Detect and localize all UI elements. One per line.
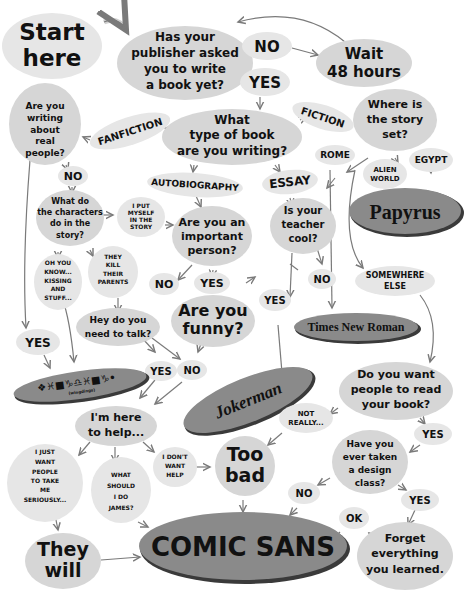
node-take-me-seriously[interactable]: I JUST WANT PEOPLE TO TAKE ME SERIOUSLY.… bbox=[7, 444, 83, 522]
node-publisher-no[interactable]: NO bbox=[242, 32, 292, 60]
node-real-no[interactable]: NO bbox=[58, 166, 88, 186]
real-line3: about bbox=[30, 125, 60, 135]
where-line3: set? bbox=[382, 128, 408, 141]
where-line1: Where is bbox=[368, 98, 423, 111]
kissing-line2: KNOW... bbox=[44, 268, 72, 275]
teacher-line1: Is your bbox=[284, 205, 323, 216]
node-publisher-yes[interactable]: YES bbox=[240, 68, 290, 96]
node-talk-question[interactable]: Hey do you need to talk? bbox=[76, 308, 160, 346]
help-line1: I'm here bbox=[91, 411, 142, 424]
real-no-label: NO bbox=[64, 170, 83, 183]
read-line3: your book? bbox=[362, 398, 431, 411]
design-line4: class? bbox=[355, 478, 385, 488]
node-real-yes[interactable]: YES bbox=[16, 329, 60, 355]
teacher-no-label: NO bbox=[314, 274, 331, 285]
read-yes-label: YES bbox=[421, 429, 443, 440]
node-papyrus-result[interactable]: Papyrus bbox=[349, 188, 464, 237]
putmyself-line2: MYSELF bbox=[128, 209, 155, 216]
kill-line2: KILL bbox=[106, 261, 121, 268]
node-egypt[interactable]: EGYPT bbox=[409, 148, 453, 172]
type-line3: are you writing? bbox=[177, 144, 287, 158]
read-line1: Do you want bbox=[357, 368, 435, 381]
toobad-line1: Too bbox=[227, 443, 264, 465]
node-design-no[interactable]: NO bbox=[288, 482, 320, 504]
rome-label: ROME bbox=[320, 150, 350, 160]
node-essay[interactable]: ESSAY bbox=[261, 167, 319, 197]
teacher-line3: cool? bbox=[289, 233, 318, 244]
node-talk-yes[interactable]: YES bbox=[145, 361, 177, 381]
putmyself-line4: STORY bbox=[130, 223, 153, 230]
node-somewhere-else[interactable]: SOMEWHERE ELSE bbox=[355, 266, 435, 296]
node-kissing[interactable]: OH YOU KNOW... KISSING AND STUFF... bbox=[34, 254, 82, 310]
node-fanfiction[interactable]: FANFICTION bbox=[86, 105, 175, 158]
node-teacher-question[interactable]: Is your teacher cool? bbox=[270, 198, 336, 254]
publisher-line1: Has your bbox=[155, 30, 215, 44]
node-times-new-roman-result[interactable]: Times New Roman bbox=[294, 313, 421, 344]
node-dont-want-help[interactable]: I DON'T WANT HELP bbox=[153, 447, 197, 487]
node-ok[interactable]: OK bbox=[339, 507, 369, 529]
funny-line1: Are you bbox=[178, 301, 248, 320]
seriously-line3: PEOPLE bbox=[32, 468, 58, 475]
forget-line1: Forget bbox=[385, 532, 426, 545]
node-where-set-question[interactable]: Where is the story set? bbox=[353, 89, 437, 151]
james-line1: WHAT bbox=[111, 471, 132, 478]
somewhere-line1: SOMEWHERE bbox=[366, 271, 425, 280]
node-wait-48-hours[interactable]: Wait 48 hours bbox=[316, 39, 412, 87]
characters-line3: do in the bbox=[50, 219, 91, 228]
node-wingdings-result[interactable]: ❖♓■♑♎♓■♑• (wingdings) bbox=[12, 362, 152, 412]
talk-line1: Hey do you bbox=[90, 315, 147, 325]
toobad-line2: bad bbox=[225, 464, 265, 486]
node-book-type-question[interactable]: What type of book are you writing? bbox=[162, 109, 302, 165]
type-line2: type of book bbox=[189, 128, 275, 142]
node-teacher-yes[interactable]: YES bbox=[259, 289, 291, 311]
kissing-line1: OH YOU bbox=[45, 259, 71, 266]
node-important-no[interactable]: NO bbox=[149, 273, 179, 295]
times-new-roman-label: Times New Roman bbox=[307, 320, 404, 334]
characters-line4: story? bbox=[56, 231, 84, 240]
node-start-here[interactable]: Start here bbox=[2, 13, 102, 79]
node-what-should-i-do-james[interactable]: WHAT SHOULD I DO JAMES? bbox=[91, 457, 151, 523]
talk-yes-label: YES bbox=[149, 366, 171, 377]
node-here-to-help[interactable]: I'm here to help... bbox=[75, 406, 157, 446]
seriously-line1: I JUST bbox=[35, 448, 56, 456]
theywill-line2: will bbox=[44, 559, 81, 581]
node-they-will[interactable]: They will bbox=[25, 533, 101, 589]
node-forget-everything[interactable]: Forget everything you learned. bbox=[357, 522, 453, 590]
important-line1: Are you an bbox=[179, 216, 246, 229]
node-not-really[interactable]: NOT REALLY... bbox=[279, 403, 333, 433]
real-line1: Are you bbox=[25, 101, 64, 111]
node-funny-question[interactable]: Are you funny? bbox=[171, 295, 255, 347]
where-line2: the story bbox=[367, 113, 423, 126]
seriously-line6: SERIOUSLY... bbox=[24, 496, 67, 503]
node-talk-no[interactable]: NO bbox=[177, 360, 207, 380]
node-teacher-no[interactable]: NO bbox=[308, 269, 336, 289]
node-real-people-question[interactable]: Are you writing about real people? bbox=[9, 83, 81, 165]
node-read-yes[interactable]: YES bbox=[414, 423, 452, 445]
node-design-yes[interactable]: YES bbox=[401, 489, 439, 511]
node-publisher-question[interactable]: Has your publisher asked you to write a … bbox=[117, 26, 253, 100]
node-alien-world[interactable]: ALIEN WORLD bbox=[363, 159, 407, 189]
node-too-bad[interactable]: Too bad bbox=[215, 436, 275, 496]
talk-line2: need to talk? bbox=[85, 329, 151, 339]
node-important-question[interactable]: Are you an important person? bbox=[172, 206, 252, 266]
real-line2: writing bbox=[27, 113, 63, 123]
node-put-myself[interactable]: I PUT MYSELF IN THE STORY bbox=[117, 197, 165, 237]
important-line2: important bbox=[181, 230, 243, 243]
dontwant-line3: HELP bbox=[166, 471, 184, 478]
node-comic-sans-result[interactable]: COMIC SANS bbox=[139, 512, 350, 584]
forget-line3: you learned. bbox=[366, 563, 444, 576]
read-line2: people to read bbox=[351, 383, 442, 396]
kill-line1: THEY bbox=[104, 253, 122, 260]
node-design-class-question[interactable]: Have you ever taken a design class? bbox=[332, 430, 408, 494]
papyrus-label: Papyrus bbox=[369, 201, 440, 224]
node-important-yes[interactable]: YES bbox=[194, 272, 230, 294]
node-characters-question[interactable]: What do the characters do in the story? bbox=[36, 190, 104, 246]
type-line1: What bbox=[214, 113, 250, 127]
node-autobiography[interactable]: AUTOBIOGRAPHY bbox=[146, 170, 243, 201]
forget-line2: everything bbox=[371, 547, 438, 560]
node-kill-parents[interactable]: THEY KILL THEIR PARENTS bbox=[88, 246, 138, 298]
publisher-no-label: NO bbox=[254, 38, 279, 56]
node-rome[interactable]: ROME bbox=[315, 145, 355, 165]
node-read-book-question[interactable]: Do you want people to read your book? bbox=[339, 362, 453, 420]
kill-line3: THEIR bbox=[103, 270, 123, 277]
